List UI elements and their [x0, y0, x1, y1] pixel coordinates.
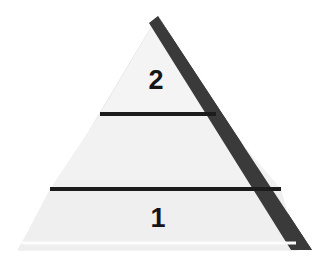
pyramid-tier-bottom-label: 1 [140, 205, 176, 232]
pyramid-tier-top-label: 2 [138, 67, 174, 94]
pyramid-diagram-canvas: 2 1 [0, 0, 329, 262]
